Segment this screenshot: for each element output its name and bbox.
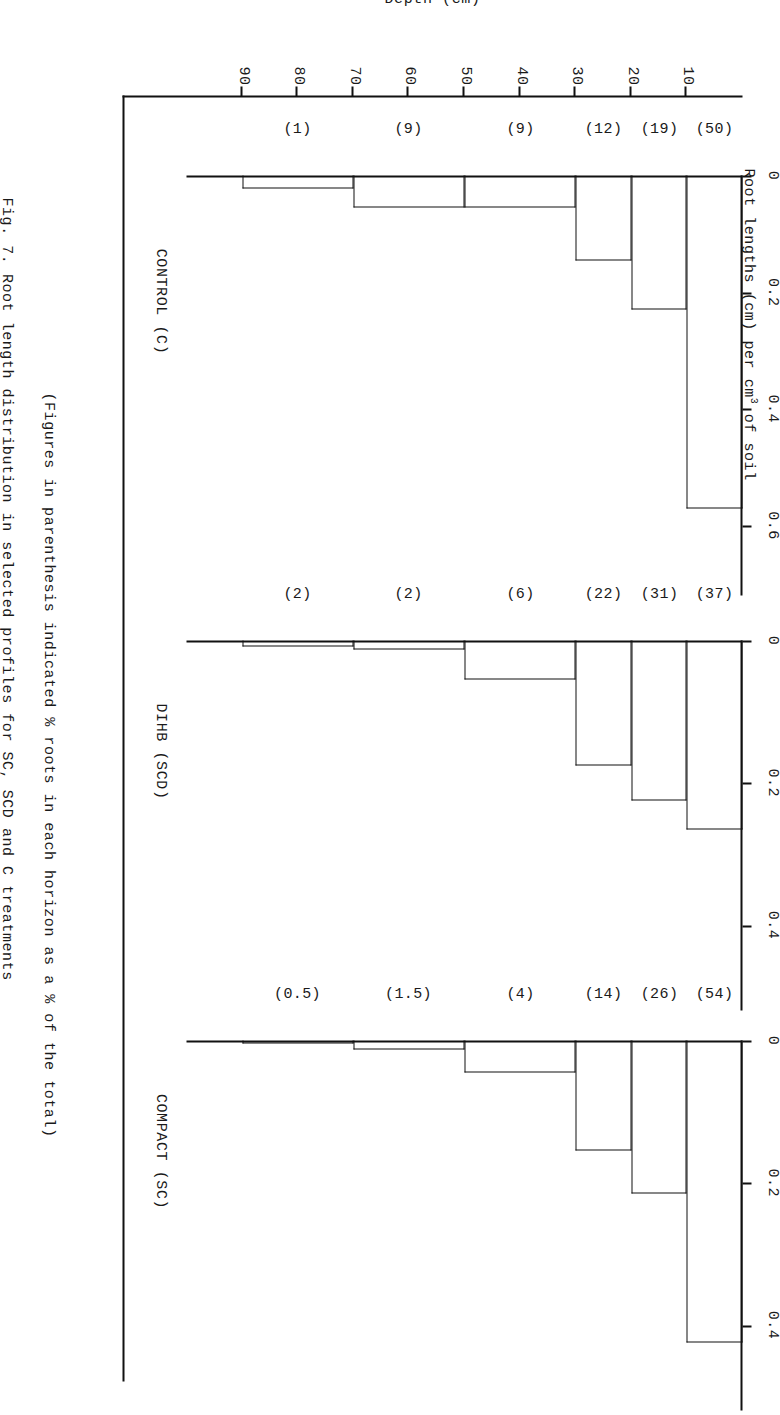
panel-scale-tick (742, 525, 751, 527)
panel-scale-label: 0.2 (763, 1168, 780, 1197)
panel-scale-label: 0.4 (763, 1310, 780, 1339)
horizon-percent-label: (9) (394, 121, 422, 138)
chart-title-superscript: 3 (747, 397, 758, 404)
panel-scale-label: 0.4 (763, 394, 780, 423)
horizon-percent-label: (9) (506, 121, 534, 138)
panel-scale-tick (742, 1040, 751, 1042)
depth-tick (684, 86, 686, 96)
histogram-bar (242, 640, 353, 646)
histogram-bar (631, 1040, 687, 1193)
histogram-bar (686, 175, 742, 508)
horizon-percent-label: (37) (695, 586, 733, 603)
panel-scale-tick (742, 292, 751, 294)
depth-tick (629, 86, 631, 96)
parenthesis-note: (Figures in parenthesis indicated % root… (39, 392, 56, 1137)
treatment-panel: 00.20.40.6(50)(19)(12)(9)(9)(1)CONTROL (… (122, 175, 742, 595)
histogram-bar (464, 640, 575, 679)
histogram-bar (575, 1040, 631, 1150)
panel-scale-tick (742, 640, 751, 642)
horizon-percent-label: (2) (283, 586, 311, 603)
depth-tick-label: 40 (512, 41, 529, 85)
panel-scale-tick (742, 925, 751, 927)
depth-tick (573, 86, 575, 96)
histogram-bar (575, 175, 631, 260)
panel-scale-label: 0 (763, 170, 780, 180)
depth-tick-label: 70 (345, 41, 362, 85)
histogram-bar (631, 640, 687, 800)
histogram-bar (353, 1040, 464, 1049)
horizon-percent-label: (22) (584, 586, 622, 603)
histogram-bar (242, 1040, 353, 1043)
horizon-percent-label: (12) (584, 121, 622, 138)
histogram-bar (631, 175, 687, 309)
panel-scale-label: 0 (763, 635, 780, 645)
horizon-percent-label: (6) (506, 586, 534, 603)
histogram-bar (575, 640, 631, 765)
horizon-percent-label: (54) (695, 986, 733, 1003)
horizon-percent-label: (1) (283, 121, 311, 138)
depth-tick (462, 86, 464, 96)
horizon-percent-label: (2) (394, 586, 422, 603)
panel-name-label: DIHB (SCD) (151, 703, 168, 799)
panel-scale-label: 0.6 (763, 511, 780, 540)
panel-scale-tick (742, 1182, 751, 1184)
panel-scale-label: 0.2 (763, 768, 780, 797)
horizon-percent-label: (50) (695, 121, 733, 138)
depth-tick (240, 86, 242, 96)
depth-axis-title: Depth (cm) (384, 0, 480, 8)
depth-tick-label: 30 (567, 41, 584, 85)
figure-caption: Fig. 7. Root length distribution in sele… (0, 197, 14, 980)
depth-tick-label: 60 (400, 41, 417, 85)
plot-area: Depth (cm) 102030405060708090 00.20.40.6… (122, 95, 742, 1381)
panel-scale-tick (742, 408, 751, 410)
horizon-percent-label: (19) (640, 121, 678, 138)
horizon-percent-label: (4) (506, 986, 534, 1003)
panel-scale-tick (742, 175, 751, 177)
histogram-bar (353, 175, 464, 207)
histogram-bar (686, 640, 742, 829)
panel-name-label: CONTROL (C) (151, 248, 168, 354)
treatment-panel: 00.20.4(54)(26)(14)(4)(1.5)(0.5)COMPACT … (122, 1040, 742, 1410)
treatment-panel: 00.20.4(37)(31)(22)(6)(2)(2)DIHB (SCD) (122, 640, 742, 1010)
panel-scale-label: 0 (763, 1035, 780, 1045)
depth-tick-label: 10 (678, 41, 695, 85)
depth-tick (351, 86, 353, 96)
histogram-bar (353, 640, 464, 649)
depth-tick (518, 86, 520, 96)
horizon-percent-label: (26) (640, 986, 678, 1003)
histogram-bar (464, 175, 575, 207)
panel-scale-tick (742, 1325, 751, 1327)
panel-scale-label: 0.2 (763, 277, 780, 306)
depth-tick-label: 80 (289, 41, 306, 85)
depth-tick (295, 86, 297, 96)
depth-tick-label: 20 (623, 41, 640, 85)
depth-tick (406, 86, 408, 96)
panel-name-label: COMPACT (SC) (151, 1093, 168, 1208)
histogram-bar (242, 175, 353, 188)
horizon-percent-label: (14) (584, 986, 622, 1003)
histogram-bar (464, 1040, 575, 1072)
panel-scale-label: 0.4 (763, 910, 780, 939)
horizon-percent-label: (1.5) (385, 986, 432, 1003)
horizon-percent-label: (0.5) (274, 986, 321, 1003)
depth-axis-line (122, 95, 742, 97)
histogram-bar (686, 1040, 742, 1342)
horizon-percent-label: (31) (640, 586, 678, 603)
panel-scale-tick (742, 782, 751, 784)
depth-tick-label: 90 (234, 41, 251, 85)
depth-tick-label: 50 (456, 41, 473, 85)
